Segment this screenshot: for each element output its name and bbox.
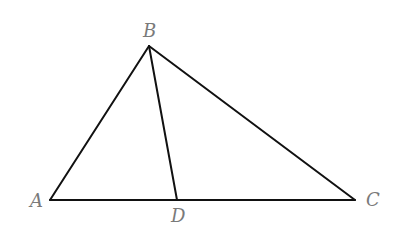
point-label-d: D: [170, 205, 186, 226]
segment-bc: [149, 46, 355, 200]
triangle-diagram: B A D C: [0, 0, 396, 236]
vertex-label-a: A: [28, 190, 43, 211]
vertex-label-c: C: [366, 189, 380, 210]
vertex-label-b: B: [142, 20, 156, 41]
segment-ab: [50, 46, 149, 200]
segment-bd: [149, 46, 177, 200]
